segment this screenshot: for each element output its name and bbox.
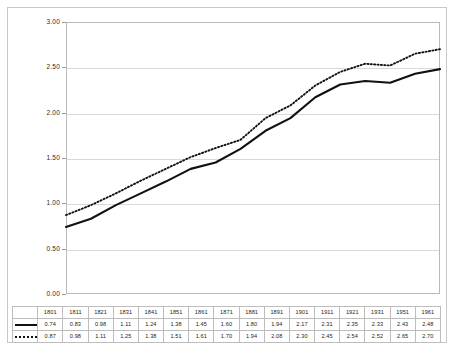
y-axis-tick-label: 1.50: [47, 154, 60, 162]
y-axis-tick-mark: [62, 249, 66, 250]
series-lines: [66, 22, 440, 294]
table-column-header: 1831: [113, 307, 138, 319]
plot-region: [66, 22, 440, 294]
table-column-header: 1841: [138, 307, 163, 319]
table-column-header: 1871: [214, 307, 239, 319]
table-cell-value: 1.45: [189, 319, 214, 331]
table-row: Male0.740.830.981.111.241.381.451.601.80…: [13, 319, 441, 331]
table-row: Female0.870.981.111.251.381.511.611.701.…: [13, 331, 441, 343]
table-header-row: 1801181118211831184118511861187118811891…: [13, 307, 441, 319]
table-column-header: 1821: [88, 307, 113, 319]
table-column-header: 1881: [239, 307, 264, 319]
line-female: [66, 49, 440, 215]
table-cell-value: 0.74: [38, 319, 63, 331]
table-cell-value: 1.38: [138, 331, 163, 343]
y-axis-tick-mark: [62, 22, 66, 23]
table-cell-value: 2.33: [365, 319, 390, 331]
legend-entry-male: Male: [13, 319, 38, 331]
y-axis-tick-label: 2.00: [47, 109, 60, 117]
table-cell-value: 2.30: [289, 331, 314, 343]
table-cell-value: 1.51: [164, 331, 189, 343]
y-axis-tick-mark: [62, 203, 66, 204]
y-axis-tick-label: 0.50: [47, 245, 60, 253]
table-column-header: 1851: [164, 307, 189, 319]
table-cell-value: 2.08: [264, 331, 289, 343]
table-column-header: 1811: [63, 307, 88, 319]
y-axis-tick-mark: [62, 158, 66, 159]
table-column-header: 1921: [340, 307, 365, 319]
table-column-header: 1961: [415, 307, 440, 319]
table-corner-cell: [13, 307, 38, 319]
table-cell-value: 0.83: [63, 319, 88, 331]
table-cell-value: 1.80: [239, 319, 264, 331]
table-cell-value: 2.65: [390, 331, 415, 343]
table-column-header: 1861: [189, 307, 214, 319]
y-axis: 0.000.501.001.502.002.503.00: [0, 0, 64, 294]
y-axis-tick-label: 0.00: [47, 290, 60, 298]
y-axis-tick-mark: [62, 67, 66, 68]
table-cell-value: 2.54: [340, 331, 365, 343]
table-column-header: 1891: [264, 307, 289, 319]
table-cell-value: 1.11: [113, 319, 138, 331]
legend-line-swatch-solid: [15, 322, 38, 328]
y-axis-tick-label: 1.00: [47, 199, 60, 207]
table-cell-value: 1.11: [88, 331, 113, 343]
table-cell-value: 1.25: [113, 331, 138, 343]
table-cell-value: 2.70: [415, 331, 440, 343]
table-cell-value: 2.43: [390, 319, 415, 331]
line-male: [66, 69, 440, 227]
chart-container: 0.000.501.001.502.002.503.00 18011811182…: [0, 0, 454, 350]
legend-line-swatch-dotted: [15, 334, 38, 340]
table-cell-value: 2.35: [340, 319, 365, 331]
table-column-header: 1951: [390, 307, 415, 319]
table-cell-value: 2.31: [315, 319, 340, 331]
table-cell-value: 2.17: [289, 319, 314, 331]
table-cell-value: 1.24: [138, 319, 163, 331]
data-table: 1801181118211831184118511861187118811891…: [12, 306, 441, 343]
table-cell-value: 1.94: [264, 319, 289, 331]
table-column-header: 1911: [315, 307, 340, 319]
table-cell-value: 1.38: [164, 319, 189, 331]
table-cell-value: 2.45: [315, 331, 340, 343]
table-cell-value: 0.87: [38, 331, 63, 343]
table-cell-value: 2.52: [365, 331, 390, 343]
table-column-header: 1901: [289, 307, 314, 319]
table-cell-value: 0.98: [88, 319, 113, 331]
y-axis-tick-mark: [62, 113, 66, 114]
table-column-header: 1801: [38, 307, 63, 319]
table-cell-value: 1.60: [214, 319, 239, 331]
legend-entry-female: Female: [13, 331, 38, 343]
data-table-container: 1801181118211831184118511861187118811891…: [12, 306, 441, 343]
y-axis-tick-mark: [62, 294, 66, 295]
table-cell-value: 1.94: [239, 331, 264, 343]
y-axis-tick-label: 3.00: [47, 18, 60, 26]
table-cell-value: 1.70: [214, 331, 239, 343]
table-cell-value: 1.61: [189, 331, 214, 343]
table-cell-value: 0.98: [63, 331, 88, 343]
table-cell-value: 2.48: [415, 319, 440, 331]
table-column-header: 1931: [365, 307, 390, 319]
y-axis-tick-label: 2.50: [47, 63, 60, 71]
